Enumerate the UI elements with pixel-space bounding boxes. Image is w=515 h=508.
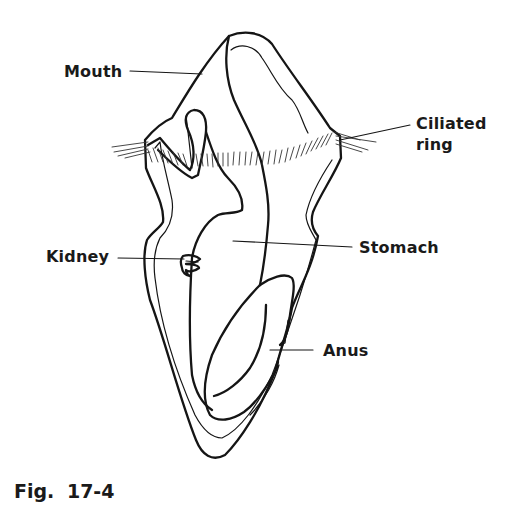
larva-diagram: Mouth Ciliated ring Kidney Stomach Anus … <box>0 0 515 508</box>
label-anus: Anus <box>323 342 369 359</box>
esophagus-wall <box>226 36 268 285</box>
stomach-leader-line <box>233 241 352 247</box>
intestine-inner-curl <box>214 305 266 396</box>
oral-fold <box>148 110 206 178</box>
label-ciliated-ring-line2: ring <box>416 136 453 153</box>
cilia-ring <box>148 133 332 167</box>
figure-caption: Fig. 17-4 <box>14 480 114 502</box>
label-stomach: Stomach <box>359 239 439 256</box>
label-mouth: Mouth <box>64 63 122 80</box>
label-kidney: Kidney <box>46 248 109 265</box>
mouth-leader-line <box>130 71 202 74</box>
ciliated-ring-leader-line <box>340 125 410 140</box>
label-ciliated-ring-line1: Ciliated <box>416 115 487 132</box>
kidney-leader-line <box>118 258 184 259</box>
